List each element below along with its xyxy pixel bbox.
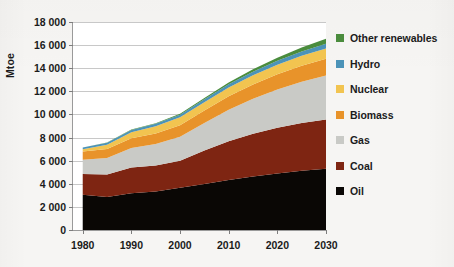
x-axis-tick-label: 1990 [120, 239, 143, 251]
y-axis-tick [69, 45, 73, 46]
legend-label: Nuclear [350, 83, 388, 95]
x-axis-tick [277, 230, 278, 234]
y-axis-tick [69, 22, 73, 23]
y-axis-tick-label: 4 000 [40, 178, 66, 190]
legend-label: Biomass [350, 109, 393, 121]
y-axis-tick-label: 10 000 [34, 108, 66, 120]
legend-swatch-icon [336, 85, 344, 93]
legend-swatch-icon [336, 60, 344, 68]
y-axis-tick [69, 207, 73, 208]
legend-label: Oil [350, 185, 364, 197]
legend-swatch-icon [336, 34, 344, 42]
x-axis-tick-label: 2000 [168, 239, 191, 251]
y-axis-tick-label: 18 000 [34, 16, 66, 28]
x-axis-tick [180, 230, 181, 234]
legend-item[interactable]: Oil [336, 179, 452, 203]
y-axis-tick-label: 6 000 [40, 155, 66, 167]
y-axis-tick [69, 161, 73, 162]
y-axis-title: Mtoe [4, 18, 18, 78]
x-axis-tick-label: 2020 [266, 239, 289, 251]
y-axis-tick [69, 230, 73, 231]
legend-swatch-icon [336, 187, 344, 195]
legend-item[interactable]: Other renewables [336, 26, 452, 50]
y-axis-tick-label: 16 000 [34, 39, 66, 51]
legend-swatch-icon [336, 111, 344, 119]
x-axis-tick-label: 1980 [71, 239, 94, 251]
y-axis-tick [69, 184, 73, 185]
legend-item[interactable]: Coal [336, 154, 452, 178]
x-axis-tick-label: 2010 [217, 239, 240, 251]
y-axis-tick-label: 0 [60, 224, 66, 236]
legend-label: Hydro [350, 58, 380, 70]
legend-item[interactable]: Biomass [336, 103, 452, 127]
x-axis-tick [83, 230, 84, 234]
legend-swatch-icon [336, 136, 344, 144]
x-axis-tick [326, 230, 327, 234]
y-axis-tick [69, 68, 73, 69]
y-axis-tick-label: 14 000 [34, 62, 66, 74]
stacked-area-series [73, 22, 326, 230]
y-axis-tick-label: 12 000 [34, 85, 66, 97]
x-axis-tick [131, 230, 132, 234]
y-axis-tick-label: 8 000 [40, 132, 66, 144]
legend-swatch-icon [336, 162, 344, 170]
x-axis-tick-label: 2030 [314, 239, 337, 251]
x-axis-tick [229, 230, 230, 234]
chart-legend: Other renewablesHydroNuclearBiomassGasCo… [336, 26, 452, 205]
y-axis-tick [69, 114, 73, 115]
plot-area: 02 0004 0006 0008 00010 00012 00014 0001… [72, 22, 326, 231]
legend-label: Coal [350, 160, 373, 172]
legend-label: Gas [350, 134, 370, 146]
legend-label: Other renewables [350, 32, 437, 44]
legend-item[interactable]: Hydro [336, 52, 452, 76]
legend-item[interactable]: Nuclear [336, 77, 452, 101]
y-axis-tick-label: 2 000 [40, 201, 66, 213]
y-axis-tick [69, 91, 73, 92]
legend-item[interactable]: Gas [336, 128, 452, 152]
chart-page: Mtoe 02 0004 0006 0008 00010 00012 00014… [0, 0, 454, 267]
y-axis-tick [69, 138, 73, 139]
